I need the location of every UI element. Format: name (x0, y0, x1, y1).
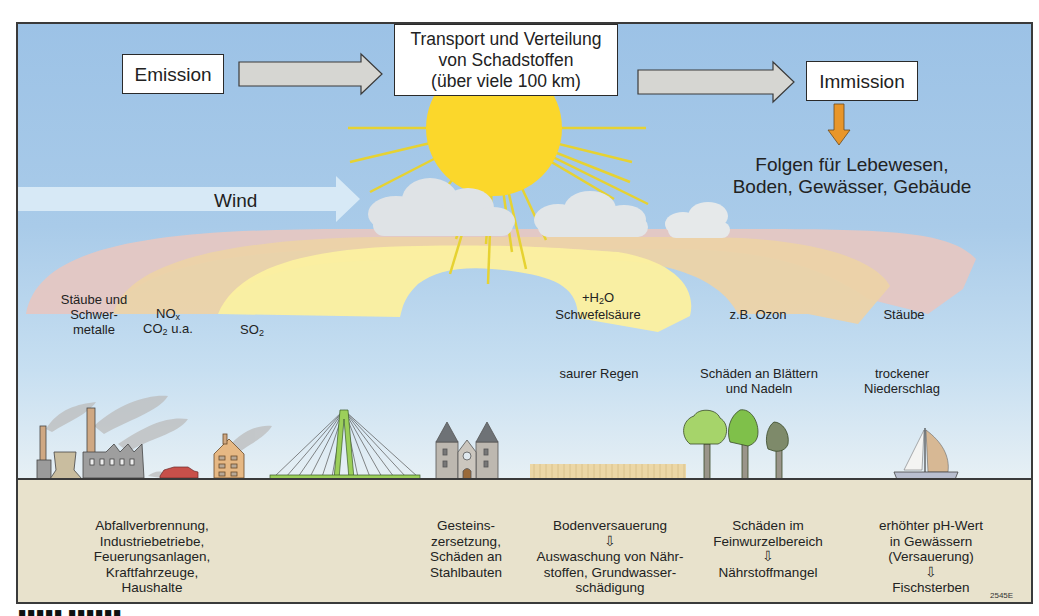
effect-leaf-damage: Schäden an Blättern und Nadeln (684, 366, 834, 396)
car-icon (160, 467, 198, 478)
plume-label-dust-metals: Stäube und Schwer- metalle (54, 292, 134, 337)
effect-dry-deposition: trockener Niederschlag (852, 366, 952, 396)
plume-label-sulfuric-acid: Schwefelsäure (538, 307, 658, 322)
effect-acid-rain: saurer Regen (544, 366, 654, 381)
down-arrow-icon (828, 104, 850, 145)
wind-label: Wind (214, 190, 294, 212)
tree-icon (684, 410, 789, 479)
emission-box: Emission (122, 54, 224, 94)
transport-label: Transport und Verteilung von Schadstoffe… (411, 29, 602, 92)
wind-arrow-icon (18, 176, 360, 222)
cloud-icon (368, 178, 730, 238)
church-icon (436, 422, 498, 480)
diagram-frame: Emission Transport und Verteilung von Sc… (16, 22, 1033, 604)
ground-label-water: erhöhter pH-Wert in Gewässern (Versaueru… (866, 518, 996, 596)
consequences-label: Folgen für Lebewesen, Boden, Gewässer, G… (722, 154, 982, 198)
plume-label-ozone: z.B. Ozon (708, 307, 808, 322)
immission-label: Immission (819, 71, 905, 92)
plume-label-dust: Stäube (864, 307, 944, 322)
figure-caption-cutoff: ▮▮▮▮▮ ▮▮▮▮▮▮ (18, 606, 122, 616)
plume-label-so2: SO2 (232, 322, 272, 341)
ground-label-soil: Bodenversauerung ⇩ Auswaschung von Nähr-… (530, 518, 690, 596)
transport-box: Transport und Verteilung von Schadstoffe… (394, 24, 618, 96)
field-icon (530, 464, 686, 479)
ground-label-sources: Abfallverbrennung, Industriebetriebe, Fe… (82, 518, 222, 596)
immission-box: Immission (806, 61, 918, 101)
ground-label-buildings: Gesteins- zersetzung, Schäden an Stahlba… (416, 518, 516, 580)
figure-code: 2545E (990, 591, 1013, 600)
ground-label-roots: Schäden im Feinwurzelbereich ⇩ Nährstoff… (698, 518, 838, 580)
plume-label-co2: CO2 u.a. (138, 321, 198, 340)
emission-label: Emission (134, 64, 211, 85)
